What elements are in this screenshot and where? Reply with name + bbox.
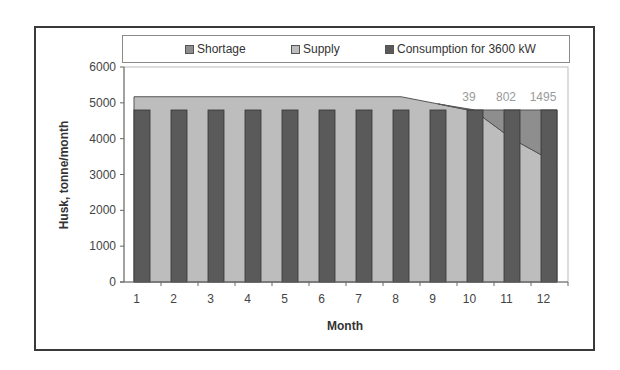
consumption-bar [319,110,335,282]
consumption-bar [245,110,261,282]
consumption-bar [430,110,446,282]
x-axis-label: Month [327,319,363,333]
consumption-bar [393,110,409,282]
consumption-bar [134,110,150,282]
y-axis-label: Husk, tonne/month [57,121,71,230]
x-tick-label: 5 [281,292,288,306]
shortage-data-label: 1495 [530,90,557,104]
x-tick-label: 1 [133,292,140,306]
x-tick-label: 12 [537,292,551,306]
x-tick-label: 3 [207,292,214,306]
y-tick-label: 2000 [89,203,116,217]
x-tick-label: 9 [429,292,436,306]
y-tick-label: 5000 [89,96,116,110]
x-tick-label: 6 [318,292,325,306]
x-tick-label: 11 [500,292,513,306]
y-tick-label: 3000 [89,168,116,182]
y-tick-label: 0 [109,275,116,289]
shortage-data-label: 39 [462,90,476,104]
y-tick-label: 4000 [89,132,116,146]
x-tick-label: 2 [170,292,177,306]
consumption-bar [504,110,520,282]
consumption-bar [171,110,187,282]
x-tick-label: 7 [355,292,362,306]
x-tick-label: 10 [463,292,477,306]
y-tick-label: 6000 [89,60,116,74]
y-tick-label: 1000 [89,239,116,253]
x-tick-label: 8 [392,292,399,306]
consumption-bar [208,110,224,282]
consumption-bar [467,110,483,282]
consumption-bar [541,110,557,282]
plot-area: 0100020003000400050006000123456789101112… [0,0,620,370]
consumption-bar [282,110,298,282]
x-tick-label: 4 [244,292,251,306]
shortage-data-label: 802 [496,90,516,104]
consumption-bar [356,110,372,282]
